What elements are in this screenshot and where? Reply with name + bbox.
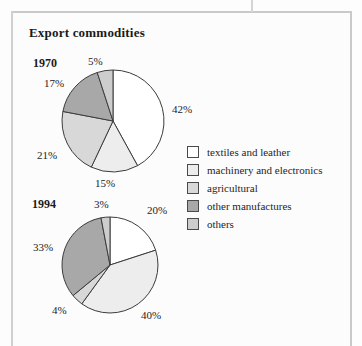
legend-label-textiles: textiles and leather — [207, 146, 290, 158]
pie-value-label-1970-other-manufactures: 17% — [44, 77, 64, 89]
pie-value-label-1994-others: 3% — [94, 198, 109, 210]
legend-swatch-machinery — [187, 164, 199, 176]
legend-label-agricultural: agricultural — [207, 182, 258, 194]
legend-item-others: others — [187, 215, 322, 232]
legend-swatch-other_manufactures — [187, 200, 199, 212]
page-frame-notch — [251, 0, 253, 12]
legend-item-textiles: textiles and leather — [187, 143, 322, 160]
pie-value-label-1994-agricultural: 4% — [52, 304, 67, 316]
legend-item-other_manufactures: other manufactures — [187, 197, 322, 214]
pie-value-label-1994-other-manufactures: 33% — [33, 241, 53, 253]
page-frame-top-border — [11, 11, 352, 13]
legend-label-other_manufactures: other manufactures — [207, 200, 292, 212]
legend-item-machinery: machinery and electronics — [187, 161, 322, 178]
scanned-page: Export commodities 1970 1994 textiles an… — [0, 0, 362, 346]
chart-legend: textiles and leathermachinery and electr… — [187, 143, 322, 233]
legend-swatch-others — [187, 218, 199, 230]
legend-swatch-textiles — [187, 146, 199, 158]
legend-swatch-agricultural — [187, 182, 199, 194]
pie-chart-title-1994: 1994 — [32, 197, 56, 212]
pie-value-label-1970-others: 5% — [88, 55, 103, 67]
pie-value-label-1994-machinery-and-electronics: 40% — [141, 309, 161, 321]
legend-label-machinery: machinery and electronics — [207, 164, 322, 176]
pie-value-label-1970-textiles-and-leather: 42% — [172, 103, 192, 115]
pie-value-label-1994-textiles-and-leather: 20% — [147, 204, 167, 216]
legend-item-agricultural: agricultural — [187, 179, 322, 196]
page-title: Export commodities — [29, 25, 145, 41]
legend-label-others: others — [207, 218, 234, 230]
pie-value-label-1970-agricultural: 21% — [37, 149, 57, 161]
page-frame-right-border — [350, 11, 352, 346]
pie-value-label-1970-machinery-and-electronics: 15% — [95, 177, 115, 189]
pie-chart-1970 — [60, 68, 166, 174]
pie-chart-1994 — [60, 215, 160, 315]
page-frame-left-border — [11, 11, 13, 346]
pie-chart-title-1970: 1970 — [33, 56, 57, 71]
